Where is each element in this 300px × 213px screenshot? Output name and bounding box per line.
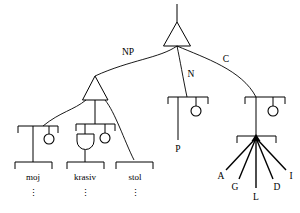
label-n: N [188, 69, 195, 79]
label-c: C [223, 54, 229, 64]
krasiv-arch-node [77, 134, 94, 150]
fan-ray-a [226, 138, 256, 170]
edge-root-to-np [95, 46, 177, 76]
n-node: P [168, 97, 208, 154]
fan-node: A G L D I [218, 134, 293, 202]
fan-label-i: I [289, 171, 292, 181]
moj-bracket-icon [18, 126, 58, 133]
ellipsis-moj: ⋮ [29, 188, 38, 198]
krasiv-node [76, 124, 115, 162]
fan-label-d: D [274, 182, 281, 192]
ellipsis-stol: ⋮ [131, 188, 140, 198]
word-moj: moj [26, 172, 40, 182]
krasiv-terminal-bracket-icon [67, 162, 104, 169]
word-krasiv: krasiv [74, 172, 96, 182]
krasiv-terminal: krasiv ⋮ [67, 162, 104, 198]
root-triangle-icon [164, 22, 191, 46]
tree-canvas: NP N C moj ⋮ [0, 0, 300, 213]
stol-terminal: stol ⋮ [116, 162, 153, 198]
moj-terminal: moj ⋮ [15, 162, 52, 198]
fan-label-g: G [232, 182, 239, 192]
fan-ray-g [239, 138, 256, 179]
ellipsis-krasiv: ⋮ [81, 188, 90, 198]
edge-np-to-stol [105, 100, 134, 160]
fan-label-l: L [253, 192, 259, 202]
root-node [164, 4, 191, 46]
syntax-tree-diagram: NP N C moj ⋮ [0, 0, 300, 213]
krasiv-bracket-icon [76, 124, 115, 131]
moj-circle-node [44, 134, 54, 144]
krasiv-circle-node [100, 133, 110, 143]
word-stol: stol [128, 172, 142, 182]
stol-terminal-bracket-icon [116, 162, 153, 169]
label-p: P [175, 144, 180, 154]
fan-ray-i [256, 138, 286, 170]
np-triangle-icon [83, 76, 109, 100]
n-bracket-icon [168, 97, 208, 104]
edge-np-to-moj [43, 100, 86, 126]
edge-root-to-n [177, 46, 187, 97]
fan-ray-d [256, 138, 273, 179]
c-circle-node [268, 106, 278, 116]
moj-terminal-bracket-icon [15, 162, 52, 169]
label-np: NP [122, 47, 134, 57]
moj-node [18, 126, 58, 162]
c-bracket-icon [245, 97, 285, 104]
n-circle-node [191, 106, 201, 116]
fan-label-a: A [218, 171, 225, 181]
np-node [43, 76, 134, 160]
c-node [245, 97, 285, 136]
